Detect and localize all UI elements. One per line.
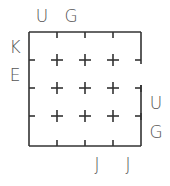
- left-label-1: K: [9, 39, 20, 56]
- right-label-1: U: [150, 95, 162, 112]
- top-label-2: G: [64, 8, 77, 25]
- bottom-label-1: J: [94, 156, 99, 173]
- right-label-2: G: [149, 124, 162, 141]
- bottom-label-2: J: [125, 156, 130, 173]
- left-label-2: E: [10, 67, 21, 84]
- grid-diagram: [0, 0, 170, 186]
- top-label-1: U: [36, 8, 48, 25]
